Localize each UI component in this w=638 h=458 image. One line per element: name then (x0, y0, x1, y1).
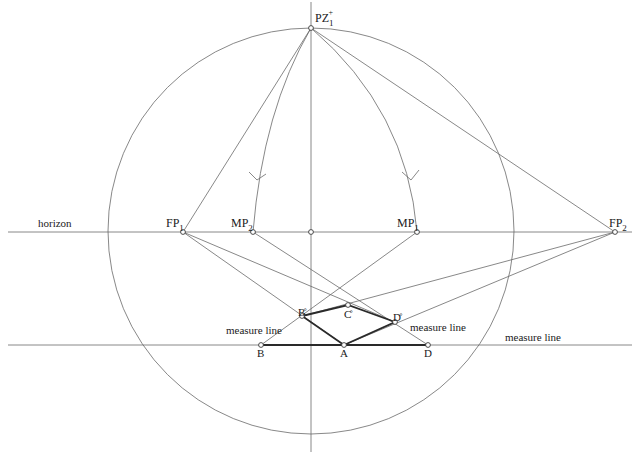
arc-pz-mp1 (311, 28, 417, 232)
arc-pz-mp2 (253, 28, 311, 232)
measure-line-label: measure line (505, 331, 561, 343)
label-fp1: FP1 (166, 216, 184, 233)
line-fp2-a (344, 232, 615, 345)
line-pz-fp2 (311, 28, 615, 232)
line-fp1-dring (183, 232, 395, 322)
line-mp1-b (261, 232, 417, 345)
line-pz-fp1 (183, 28, 311, 232)
label-c-ring: C̊ (344, 308, 353, 320)
point-pz (309, 26, 314, 31)
point-fp2 (613, 230, 618, 235)
perspective-diagram: horizon measure line measure line measur… (0, 0, 638, 458)
label-pz: PZ1+ (315, 8, 334, 28)
label-b: B (257, 347, 264, 359)
label-mp2: MP2 (231, 216, 253, 233)
point-labels: PZ1+FP1MP2MP1FP2BADB̊C̊D̊ (166, 8, 627, 359)
arrowhead-icon (402, 170, 419, 180)
point-c-ring (346, 303, 351, 308)
measure-line-label-right: measure line (410, 321, 466, 333)
points-group (181, 26, 618, 348)
label-fp2: FP2 (609, 216, 627, 233)
label-d: D (424, 347, 432, 359)
horizon-label: horizon (38, 217, 72, 229)
measure-line-label-left: measure line (226, 324, 282, 336)
point-h0 (309, 230, 314, 235)
arrowhead-icon (249, 172, 266, 180)
label-a: A (340, 347, 348, 359)
